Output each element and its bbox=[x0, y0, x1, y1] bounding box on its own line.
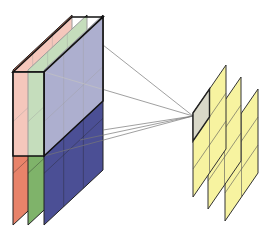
output-feature-maps bbox=[193, 65, 258, 221]
diagram-svg bbox=[0, 0, 270, 242]
kernel-front-face bbox=[13, 72, 44, 156]
connection-line bbox=[103, 45, 193, 116]
cnn-convolution-diagram bbox=[0, 0, 270, 242]
